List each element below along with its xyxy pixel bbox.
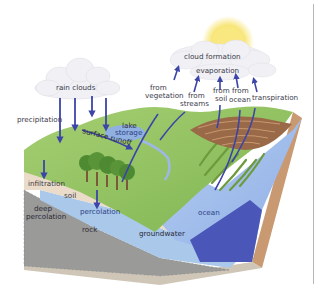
rain-cloud [35,58,120,99]
label-ocean: ocean [198,208,220,217]
label-precipitation: precipitation [17,115,62,124]
label-from-vegetation-2: vegetation [145,91,184,100]
label-groundwater: groundwater [139,229,185,238]
label-soil: soil [64,191,76,200]
water-cycle-diagram: rain clouds precipitation lake storage s… [0,0,322,287]
label-from-streams-2: streams [180,99,209,108]
label-cloud-formation: cloud formation [184,52,241,61]
label-rain-clouds: rain clouds [56,83,96,92]
page-divider [313,4,314,284]
label-transpiration: transpiration [252,93,298,102]
label-from-ocean-2: ocean [229,95,251,104]
label-infiltration: infiltration [28,179,65,188]
label-rock: rock [82,225,98,234]
label-from-ocean-1: from [232,86,249,95]
label-percolation: percolation [80,207,120,216]
label-deep-percolation-2: percolation [26,212,66,221]
label-evaporation: evaporation [196,66,239,75]
label-from-soil-2: soil [215,94,227,103]
